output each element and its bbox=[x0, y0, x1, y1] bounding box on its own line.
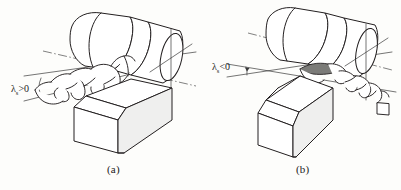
figure-caption-a: (a) bbox=[107, 163, 120, 175]
angle-condition-a: >0 bbox=[18, 83, 29, 94]
angle-condition-b: <0 bbox=[219, 61, 230, 72]
figure-caption-b: (b) bbox=[296, 163, 309, 175]
panel-a bbox=[24, 13, 196, 153]
angle-arrow-b bbox=[245, 68, 250, 72]
angle-label-a: λs>0 bbox=[11, 84, 29, 97]
angle-label-b: λs<0 bbox=[212, 62, 230, 75]
cutting-tool-b bbox=[258, 76, 333, 157]
figure-sheet: λs>0 λs<0 (a) (b) bbox=[0, 0, 401, 190]
cutting-tool-a bbox=[74, 79, 172, 153]
panel-b bbox=[227, 8, 396, 157]
technical-drawing bbox=[0, 0, 401, 190]
